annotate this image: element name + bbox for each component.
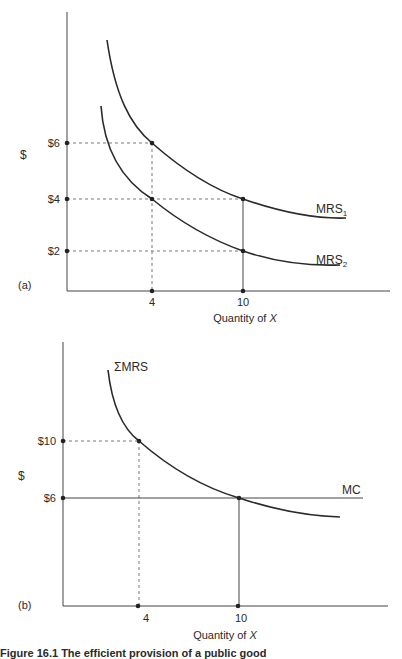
panel-b-y-label: $ — [18, 470, 25, 482]
panel-b-points — [61, 439, 242, 609]
figure-caption: Figure 16.1 The efficient provision of a… — [0, 647, 266, 659]
panel-a-xtick-4: 4 — [149, 297, 155, 308]
panel-a-y-label: $ — [20, 149, 27, 161]
panel-b-ytick-6: $6 — [28, 493, 56, 504]
mrs1-label: MRS1 — [316, 203, 347, 218]
panel-a-xtick-10: 10 — [237, 297, 249, 308]
panel-b-tag: (b) — [18, 600, 31, 611]
panel-b-x-label: Quantity of X — [193, 630, 257, 641]
panel-b-plot — [61, 342, 388, 608]
mc-label: MC — [342, 484, 361, 496]
panel-a-ytick-2: $2 — [34, 246, 60, 257]
mrs2-curve — [101, 106, 340, 265]
panel-a-tag: (a) — [18, 280, 31, 291]
panel-b-xtick-10: 10 — [235, 613, 247, 624]
panel-a-guides — [67, 143, 243, 291]
panel-b-ytick-10: $10 — [28, 436, 56, 447]
panel-a-points — [65, 141, 246, 294]
sum-mrs-label: ΣMRS — [114, 361, 148, 373]
panel-b-xtick-4: 4 — [143, 613, 149, 624]
mrs1-curve — [107, 40, 346, 218]
panel-b-guides — [63, 441, 139, 606]
panel-a-plot — [65, 12, 390, 293]
panel-a-x-label: Quantity of X — [213, 313, 277, 324]
panel-a-ytick-4: $4 — [34, 194, 60, 205]
mrs2-label: MRS2 — [316, 254, 347, 269]
panel-a-ytick-6: $6 — [34, 138, 60, 149]
sum-mrs-curve — [108, 370, 340, 517]
